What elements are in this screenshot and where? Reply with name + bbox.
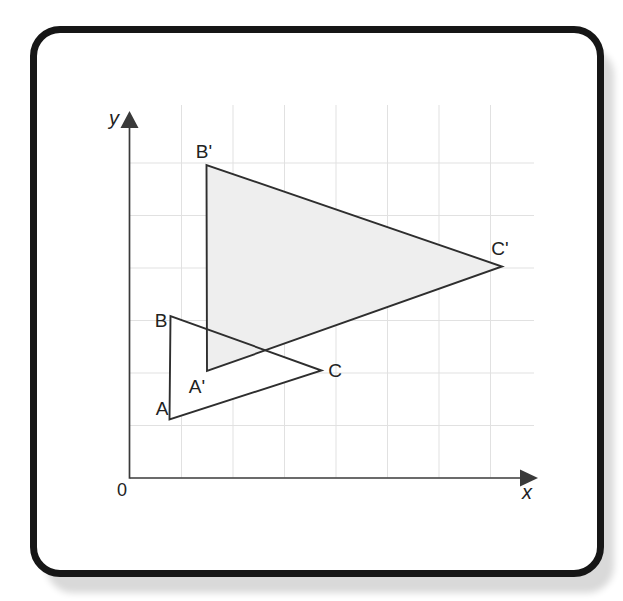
page: xy0ABCA'B'C' [0,0,623,601]
triangle-image [207,165,503,371]
y-axis-label: y [107,107,120,129]
vertex-label-B-prime: B' [196,141,212,162]
vertex-label-C: C [328,360,342,381]
vertex-label-B: B [155,310,168,331]
vertex-label-C-prime: C' [491,238,508,259]
origin-label: 0 [117,480,127,500]
y-axis-arrow-icon [121,111,139,128]
diagram-canvas: xy0ABCA'B'C' [0,0,623,601]
x-axis-label: x [521,481,533,503]
vertex-label-A-prime: A' [189,376,205,397]
vertex-label-A: A [156,398,169,419]
